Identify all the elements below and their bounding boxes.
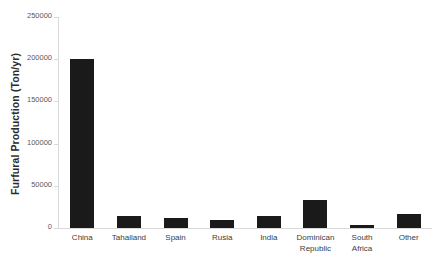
y-axis-tick-label-slot: 250000 [0, 12, 52, 22]
x-axis-tick-label: China [59, 233, 106, 244]
bar-slot [292, 17, 339, 228]
bar [70, 59, 94, 228]
y-axis-tick-label: 50000 [4, 181, 52, 189]
x-axis-tick-label: South Africa [339, 233, 386, 254]
y-axis-title: Furfural Production (Ton/yr) [4, 18, 26, 230]
bar-slot [339, 17, 386, 228]
bar [303, 200, 327, 228]
x-axis-tick-label: Rusia [199, 233, 246, 244]
y-axis-tick-label-slot: 0 [0, 223, 52, 233]
y-axis-tick-label: 200000 [4, 54, 52, 62]
x-axis-tick-label: Spain [152, 233, 199, 244]
x-axis-tick-label: Other [385, 233, 432, 244]
y-axis-tick-label-slot: 150000 [0, 96, 52, 106]
bar [164, 218, 188, 228]
y-axis-tick-label-slot: 100000 [0, 139, 52, 149]
bar-slot [152, 17, 199, 228]
y-axis-tick-label: 250000 [4, 12, 52, 20]
plot-area [59, 17, 432, 228]
bar-slot [59, 17, 106, 228]
bar [397, 214, 421, 228]
x-axis-tick-label: Dominican Republic [292, 233, 339, 254]
y-axis-tick-label: 100000 [4, 139, 52, 147]
y-axis-tick-label: 150000 [4, 96, 52, 104]
bar [210, 220, 234, 228]
bar-slot [385, 17, 432, 228]
y-axis-tick-label-slot: 200000 [0, 54, 52, 64]
bar-slot [106, 17, 153, 228]
y-axis-tick-label-slot: 50000 [0, 181, 52, 191]
bar-slot [199, 17, 246, 228]
x-axis-tick-label: Tahailand [106, 233, 153, 244]
bar [350, 225, 374, 228]
bar [117, 216, 141, 228]
y-axis-tick-label: 0 [4, 223, 52, 231]
bar-slot [246, 17, 293, 228]
x-axis-line [58, 228, 432, 229]
x-axis-tick-label: India [246, 233, 293, 244]
bar [257, 216, 281, 228]
bar-chart: Furfural Production (Ton/yr) 05000010000… [0, 0, 439, 262]
